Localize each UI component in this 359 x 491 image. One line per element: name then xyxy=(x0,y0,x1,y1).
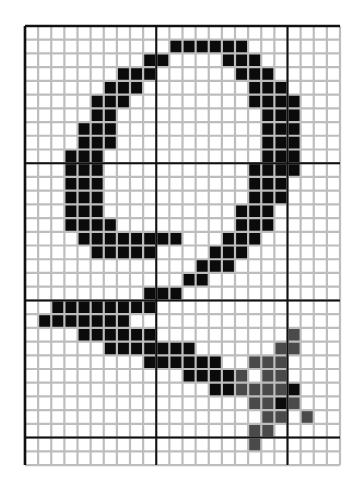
black-cell xyxy=(78,149,91,163)
black-cell xyxy=(235,40,248,54)
gray-cell xyxy=(235,383,248,397)
black-cell xyxy=(91,314,104,328)
black-cell xyxy=(235,204,248,218)
pixel-grid-figure: Bitmap glyph of handwritten digit 9 on a… xyxy=(25,26,340,465)
black-cell xyxy=(78,177,91,191)
gray-cell xyxy=(274,369,287,383)
black-cell xyxy=(104,246,117,260)
gray-cell xyxy=(261,396,274,410)
black-cell xyxy=(261,108,274,122)
black-cell xyxy=(248,204,261,218)
black-cell xyxy=(183,369,196,383)
black-cell xyxy=(78,314,91,328)
gray-cell xyxy=(261,383,274,397)
black-cell xyxy=(261,95,274,109)
black-cell xyxy=(261,191,274,205)
black-cell xyxy=(117,81,130,95)
black-cell xyxy=(104,108,117,122)
black-cell xyxy=(209,355,222,369)
black-cell xyxy=(64,191,77,205)
black-cell xyxy=(64,149,77,163)
black-cell xyxy=(104,218,117,232)
black-cell xyxy=(156,232,169,246)
black-cell xyxy=(143,246,156,260)
black-cell xyxy=(222,53,235,67)
black-cell xyxy=(156,53,169,67)
gray-cell xyxy=(248,355,261,369)
black-cell xyxy=(156,287,169,301)
gray-cell xyxy=(248,383,261,397)
gray-cell xyxy=(274,355,287,369)
black-cell xyxy=(130,342,143,356)
black-cell xyxy=(156,342,169,356)
gray-cell xyxy=(274,342,287,356)
black-cell xyxy=(78,218,91,232)
black-cell xyxy=(288,95,301,109)
black-cell xyxy=(64,177,77,191)
black-cell xyxy=(91,108,104,122)
black-cell xyxy=(130,67,143,81)
black-cell xyxy=(91,149,104,163)
black-cell xyxy=(261,204,274,218)
black-cell xyxy=(91,136,104,150)
black-cell xyxy=(169,232,182,246)
black-cell xyxy=(143,67,156,81)
black-cell xyxy=(248,67,261,81)
black-cell xyxy=(104,342,117,356)
gray-cell xyxy=(301,410,314,424)
black-cell xyxy=(209,259,222,273)
black-cell xyxy=(274,396,287,410)
black-cell xyxy=(91,218,104,232)
black-cell xyxy=(183,342,196,356)
black-cell xyxy=(104,136,117,150)
black-cell xyxy=(104,300,117,314)
black-cell xyxy=(261,149,274,163)
black-cell xyxy=(248,191,261,205)
black-cell xyxy=(91,232,104,246)
black-cell xyxy=(235,67,248,81)
gray-cell xyxy=(261,410,274,424)
gray-cell xyxy=(261,355,274,369)
black-cell xyxy=(196,259,209,273)
black-cell xyxy=(261,177,274,191)
black-cell xyxy=(235,218,248,232)
black-cell xyxy=(169,355,182,369)
black-cell xyxy=(288,136,301,150)
black-cell xyxy=(130,328,143,342)
black-cell xyxy=(248,218,261,232)
black-cell xyxy=(274,163,287,177)
black-cell xyxy=(91,122,104,136)
gray-cell xyxy=(248,438,261,452)
black-cell xyxy=(64,218,77,232)
black-cell xyxy=(78,232,91,246)
black-cell xyxy=(117,232,130,246)
black-cell xyxy=(274,122,287,136)
black-cell xyxy=(196,369,209,383)
black-cell xyxy=(104,95,117,109)
black-cell xyxy=(196,273,209,287)
gray-cell xyxy=(248,424,261,438)
black-cell xyxy=(261,163,274,177)
black-cell xyxy=(91,328,104,342)
black-cell xyxy=(261,81,274,95)
black-cell xyxy=(288,163,301,177)
black-cell xyxy=(196,40,209,54)
black-cell xyxy=(248,163,261,177)
black-cell xyxy=(64,314,77,328)
black-cell xyxy=(117,314,130,328)
black-cell xyxy=(274,95,287,109)
black-cell xyxy=(91,204,104,218)
black-cell xyxy=(130,246,143,260)
gray-cell xyxy=(235,369,248,383)
gray-cell xyxy=(261,424,274,438)
black-cell xyxy=(117,95,130,109)
black-cell xyxy=(209,369,222,383)
black-cell xyxy=(104,232,117,246)
black-cell xyxy=(261,218,274,232)
black-cell xyxy=(274,81,287,95)
black-cell xyxy=(117,328,130,342)
black-cell xyxy=(64,163,77,177)
black-cell xyxy=(196,355,209,369)
black-cell xyxy=(104,122,117,136)
black-cell xyxy=(130,300,143,314)
